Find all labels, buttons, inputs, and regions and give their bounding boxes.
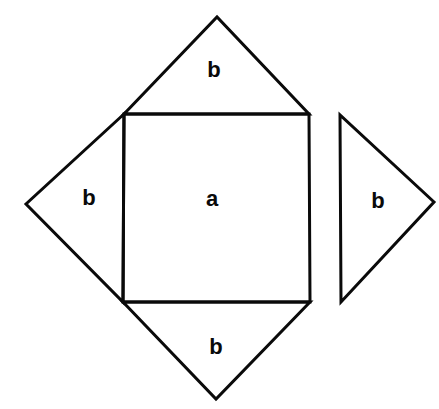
diagram-canvas: b b a b b [0, 0, 439, 409]
label-triangle-left: b [82, 187, 95, 209]
label-square: a [206, 188, 218, 210]
triangle-left [26, 114, 124, 302]
triangle-right-detached [340, 115, 434, 302]
label-triangle-bottom: b [209, 336, 222, 358]
label-triangle-top: b [207, 59, 220, 81]
label-triangle-right: b [371, 190, 384, 212]
